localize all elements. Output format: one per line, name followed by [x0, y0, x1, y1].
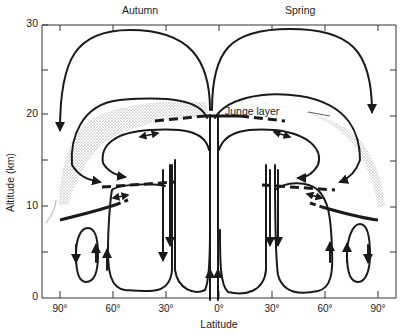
x-tick-0: 0° [214, 303, 224, 314]
y-axis-label: Altitude (km) [4, 153, 16, 212]
y-tick-30: 30 [18, 17, 38, 29]
y-tick-10: 10 [18, 199, 38, 211]
x-tick-30-right: 30° [264, 303, 279, 314]
streamlines [60, 29, 372, 300]
season-label-spring: Spring [285, 4, 315, 16]
x-axis-label: Latitude [200, 318, 237, 330]
faint-sketch [46, 200, 56, 223]
x-tick-30-left: 30° [158, 303, 173, 314]
x-tick-90-right: 90° [370, 303, 385, 314]
season-label-autumn: Autumn [122, 4, 158, 16]
y-tick-0: 0 [18, 290, 38, 302]
x-tick-60-right: 60° [317, 303, 332, 314]
x-tick-60-left: 60° [105, 303, 120, 314]
y-tick-20: 20 [18, 107, 38, 119]
circulation-diagram [0, 0, 409, 335]
x-tick-90-left: 90° [52, 303, 67, 314]
junge-layer-annotation: Junge layer [225, 105, 279, 117]
